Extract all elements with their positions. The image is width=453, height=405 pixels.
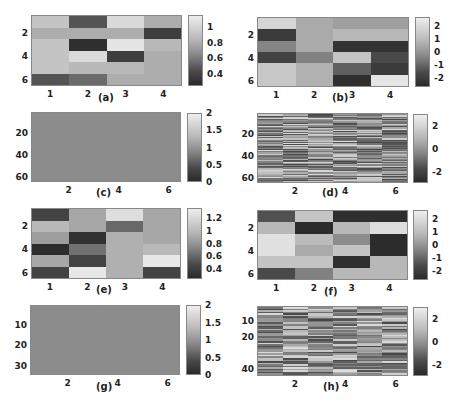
y-tick: 40 — [234, 364, 254, 374]
colorbar-tick: 0 — [432, 144, 438, 154]
colorbar-tick: 0.5 — [206, 160, 222, 170]
caption-f: (f) — [324, 286, 338, 297]
heatmap-band — [382, 181, 407, 182]
y-tick: 2 — [8, 28, 28, 38]
y-tick: 6 — [8, 75, 28, 85]
colorbar-tick: 0.5 — [205, 353, 221, 363]
heatmap-cell — [107, 28, 144, 40]
heatmap-cell — [32, 74, 69, 86]
colorbar-tick: 0 — [432, 337, 438, 347]
colorbar-tick: 0.6 — [207, 53, 223, 63]
heatmap-cell — [32, 39, 69, 51]
heatmap-cell — [258, 41, 296, 52]
heatmap-cell — [258, 256, 295, 267]
heatmap-cell — [258, 52, 296, 63]
x-tick: 4 — [160, 89, 166, 99]
heatmap-c — [31, 112, 181, 182]
x-tick: 3 — [348, 283, 354, 293]
x-tick: 4 — [115, 378, 121, 388]
heatmap-cell — [143, 255, 180, 267]
heatmap-cell — [371, 18, 409, 29]
y-tick: 20 — [234, 129, 254, 139]
colorbar-tick: 1 — [206, 226, 212, 236]
heatmap-cell — [295, 245, 332, 256]
heatmap-cell — [144, 28, 181, 40]
heatmap-cell — [333, 256, 370, 267]
heatmap-cell — [296, 18, 334, 29]
x-tick: 2 — [311, 90, 317, 100]
heatmap-cell — [106, 232, 143, 244]
heatmap-cell — [333, 75, 371, 86]
colorbar-h — [413, 307, 428, 376]
heatmap-cell — [333, 268, 370, 279]
heatmap-cell — [32, 62, 69, 74]
caption-b: (b) — [332, 92, 348, 103]
heatmap-cell — [69, 221, 106, 233]
x-tick: 2 — [292, 186, 298, 196]
colorbar-tick: 1.5 — [205, 318, 221, 328]
colorbar-tick: 1 — [207, 22, 213, 32]
heatmap-e — [31, 208, 181, 279]
x-tick: 4 — [342, 379, 348, 389]
x-tick: 4 — [386, 283, 392, 293]
heatmap-cell — [370, 245, 407, 256]
y-tick: 2 — [234, 223, 254, 233]
colorbar-tick: 1 — [206, 143, 212, 153]
heatmap-cell — [106, 255, 143, 267]
heatmap-cell — [69, 244, 106, 256]
heatmap-cell — [69, 267, 106, 279]
x-tick: 6 — [392, 186, 398, 196]
x-tick: 3 — [122, 89, 128, 99]
heatmap-band — [308, 181, 333, 182]
colorbar-tick: 1.5 — [206, 125, 222, 135]
heatmap-f — [257, 210, 408, 280]
y-tick: 10 — [7, 320, 27, 330]
colorbar-tick: 2 — [434, 21, 440, 31]
colorbar-tick: 2 — [206, 108, 212, 118]
heatmap-cell — [333, 63, 371, 74]
heatmap-d — [257, 113, 408, 183]
y-tick: 10 — [234, 316, 254, 326]
heatmap-cell — [144, 74, 181, 86]
caption-c: (c) — [96, 187, 111, 198]
heatmap-cell — [106, 209, 143, 221]
colorbar-tick: 2 — [432, 314, 438, 324]
heatmap-cell — [333, 234, 370, 245]
heatmap-cell — [371, 75, 409, 86]
heatmap-cell — [296, 75, 334, 86]
y-tick: 2 — [8, 221, 28, 231]
y-tick: 20 — [8, 128, 28, 138]
heatmap-band — [333, 373, 358, 375]
heatmap-cell — [258, 29, 296, 40]
x-tick: 2 — [292, 379, 298, 389]
y-tick: 4 — [234, 246, 254, 256]
heatmap-cell — [333, 18, 371, 29]
heatmap-cell — [333, 211, 370, 222]
heatmap-cell — [258, 75, 296, 86]
heatmap-cell — [106, 267, 143, 279]
heatmap-cell — [32, 28, 69, 40]
heatmap-cell — [69, 209, 106, 221]
heatmap-band — [283, 181, 308, 182]
heatmap-cell — [32, 255, 69, 267]
heatmap-cell — [107, 51, 144, 63]
x-tick: 1 — [47, 282, 53, 292]
heatmap-cell — [106, 244, 143, 256]
colorbar-tick: 0.8 — [207, 38, 223, 48]
heatmap-cell — [32, 209, 69, 221]
heatmap-cell — [296, 63, 334, 74]
heatmap-cell — [107, 74, 144, 86]
heatmap-cell — [333, 29, 371, 40]
heatmap-band — [308, 373, 333, 375]
heatmap-band — [333, 181, 358, 182]
colorbar-tick: 1 — [434, 34, 440, 44]
colorbar-tick: -1 — [432, 253, 442, 263]
caption-g: (g) — [96, 381, 112, 392]
heatmap-band — [357, 373, 382, 375]
heatmap-cell — [295, 211, 332, 222]
heatmap-cell — [371, 41, 409, 52]
heatmap-cell — [144, 62, 181, 74]
x-tick: 2 — [65, 378, 71, 388]
colorbar-tick: -2 — [432, 266, 442, 276]
x-tick: 3 — [122, 282, 128, 292]
